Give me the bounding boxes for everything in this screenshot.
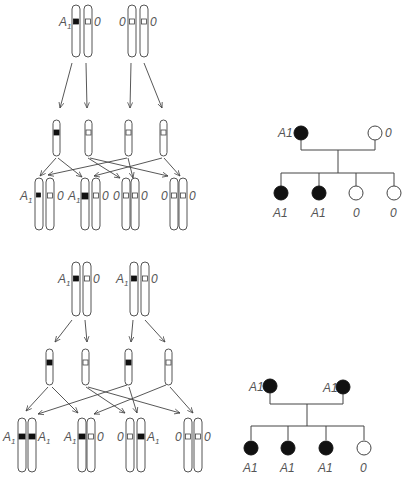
- svg-text:0: 0: [390, 206, 397, 220]
- svg-text:A1: A1: [19, 189, 32, 205]
- svg-text:A1: A1: [63, 430, 76, 446]
- svg-text:0: 0: [151, 272, 158, 286]
- svg-text:0: 0: [113, 189, 120, 203]
- svg-text:A1: A1: [146, 430, 159, 446]
- chromosome: [72, 5, 80, 57]
- chromosome: [128, 5, 136, 57]
- allele-label-right: 0: [94, 15, 101, 29]
- top-gametes: [53, 120, 167, 156]
- svg-text:A1: A1: [248, 380, 264, 394]
- bottom-pedigree: A1 A1 A1 A1 A1 0: [242, 379, 371, 475]
- bottom-gametes: [46, 349, 172, 385]
- svg-text:A1: A1: [57, 272, 70, 288]
- top-parent-2-chromosome-pair: 0 0: [119, 5, 157, 57]
- svg-text:A1: A1: [242, 461, 258, 475]
- svg-text:A1: A1: [67, 189, 80, 205]
- bottom-offspring-2: A1 0: [63, 418, 104, 472]
- top-pedigree: A1 0 A1 A1 0 0: [272, 126, 401, 220]
- chromosome: [84, 5, 92, 57]
- svg-text:0: 0: [204, 430, 211, 444]
- parent-affected: [336, 380, 350, 394]
- svg-text:0: 0: [360, 461, 367, 475]
- child-affected: [244, 441, 258, 455]
- svg-text:0: 0: [189, 189, 196, 203]
- bottom-parent-1-chromosome-pair: A1 0: [57, 262, 100, 316]
- genetics-figure: A1 0 0 0: [0, 0, 402, 484]
- bottom-parent-2-chromosome-pair: A1 0: [115, 262, 158, 316]
- child-affected: [281, 441, 295, 455]
- child-affected: [319, 441, 333, 455]
- svg-text:0: 0: [385, 126, 392, 140]
- top-offspring-2: A1 0: [67, 178, 109, 230]
- svg-text:A1: A1: [2, 430, 15, 446]
- svg-text:A1: A1: [37, 430, 50, 446]
- bottom-offspring-3: 0 A1: [117, 418, 159, 472]
- child-affected: [274, 186, 288, 200]
- svg-text:A1: A1: [279, 461, 295, 475]
- allele-0-marker: [142, 19, 147, 24]
- top-offspring-1: A1 0: [19, 178, 64, 230]
- svg-text:0: 0: [97, 430, 104, 444]
- top-chromosome-diagram: A1 0 0 0: [19, 5, 196, 230]
- svg-text:0: 0: [117, 430, 124, 444]
- allele-0-marker: [130, 19, 135, 24]
- svg-text:0: 0: [175, 430, 182, 444]
- svg-text:A1: A1: [317, 461, 333, 475]
- child-unaffected: [349, 186, 363, 200]
- svg-text:A1: A1: [277, 126, 293, 140]
- parent-affected: [294, 126, 308, 140]
- allele-a1-marker: [74, 19, 79, 24]
- svg-text:A1: A1: [115, 272, 128, 288]
- allele-label-right: 0: [150, 15, 157, 29]
- child-unaffected: [387, 186, 401, 200]
- svg-text:0: 0: [93, 272, 100, 286]
- allele-label-left: A1: [58, 15, 71, 31]
- svg-text:0: 0: [102, 189, 109, 203]
- svg-text:0: 0: [57, 189, 64, 203]
- bottom-chromosome-diagram: A1 0 A1 0: [2, 262, 211, 472]
- svg-text:A1: A1: [322, 381, 338, 395]
- bottom-offspring-1: A1 A1: [2, 418, 50, 472]
- svg-text:0: 0: [141, 189, 148, 203]
- svg-text:A1: A1: [310, 206, 326, 220]
- parent-unaffected: [368, 126, 382, 140]
- allele-0-marker: [86, 19, 91, 24]
- svg-text:A1: A1: [272, 206, 288, 220]
- top-offspring-3: 0 0: [113, 178, 148, 230]
- chromosome: [140, 5, 148, 57]
- top-offspring-4: 0 0: [161, 178, 196, 230]
- allele-label-left: 0: [119, 15, 126, 29]
- svg-text:0: 0: [161, 189, 168, 203]
- child-affected: [312, 186, 326, 200]
- child-unaffected: [357, 441, 371, 455]
- top-parent-1-chromosome-pair: A1 0: [58, 5, 101, 57]
- svg-text:0: 0: [353, 206, 360, 220]
- parent-affected: [263, 379, 277, 393]
- bottom-offspring-4: 0 0: [175, 418, 211, 472]
